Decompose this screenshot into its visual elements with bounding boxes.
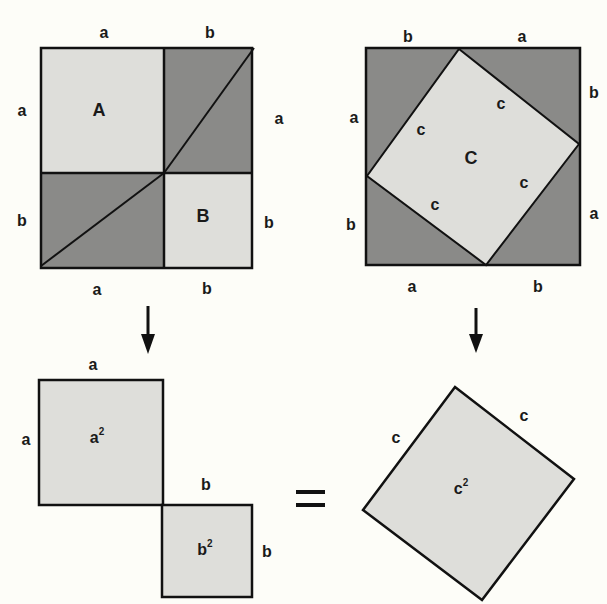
label-c-bottom-right: c	[520, 174, 529, 191]
label-c-left: c	[392, 429, 401, 446]
label-bottom-b: b	[202, 280, 212, 297]
label-left-b: b	[346, 216, 356, 233]
label-bottom-a: a	[408, 278, 417, 295]
square-c2	[363, 387, 574, 600]
label-top-a: a	[100, 24, 109, 41]
label-right-b: b	[589, 84, 599, 101]
arrow-down-left-icon	[141, 306, 155, 354]
label-right-a: a	[590, 205, 599, 222]
square-a2	[39, 380, 163, 505]
label-bottom-b: b	[533, 278, 543, 295]
region-b-label: B	[197, 206, 210, 226]
right-big-square: b a a b b a a b c c c c C	[346, 28, 599, 295]
label-a-top: a	[89, 356, 98, 373]
arrow-down-right-icon	[469, 308, 483, 353]
label-right-a: a	[275, 110, 284, 127]
label-right-b: b	[264, 214, 274, 231]
equals-sign	[296, 490, 325, 507]
label-a-side: a	[22, 431, 31, 448]
label-left-b: b	[17, 212, 27, 229]
label-b-top: b	[201, 476, 211, 493]
label-bottom-a: a	[93, 281, 102, 298]
squares-a2-b2: a a a2 b b b2	[22, 356, 273, 597]
square-c2-group: c c c2	[363, 387, 574, 600]
label-c-right: c	[520, 407, 529, 424]
label-left-a: a	[18, 102, 27, 119]
label-c-bottom-left: c	[431, 196, 440, 213]
label-c-top-left: c	[417, 121, 426, 138]
label-top-b: b	[205, 24, 215, 41]
label-left-a: a	[350, 109, 359, 126]
label-top-a: a	[518, 28, 527, 45]
label-b-side: b	[262, 543, 272, 560]
region-a-label: A	[93, 100, 106, 120]
label-c-top-right: c	[497, 95, 506, 112]
left-big-square: a b a b a b a b A B	[17, 24, 283, 298]
label-top-b: b	[403, 28, 413, 45]
diagram-canvas: a b a b a b a b A B b a a b b a a b c c …	[0, 0, 607, 604]
region-c-label: C	[465, 148, 478, 168]
